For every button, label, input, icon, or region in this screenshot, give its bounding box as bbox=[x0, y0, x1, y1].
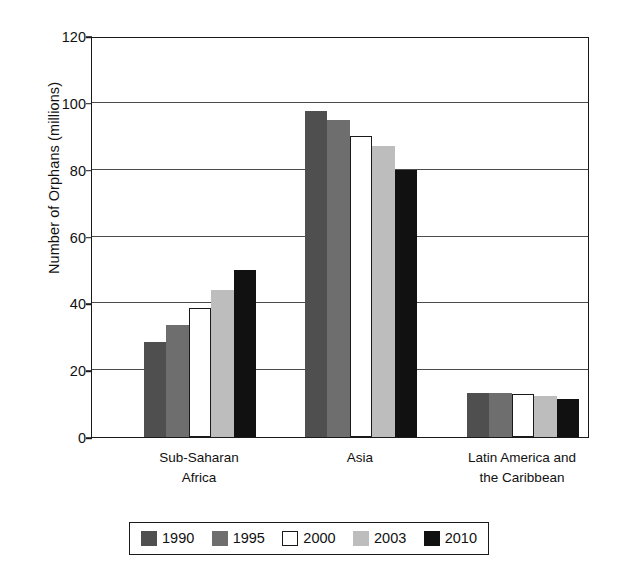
orphans-bar-chart: Number of Orphans (millions) 02040608010… bbox=[0, 0, 618, 585]
legend-item-1990[interactable]: 1990 bbox=[141, 531, 194, 546]
bar-1990-asia bbox=[305, 111, 328, 437]
legend-item-2000[interactable]: 2000 bbox=[282, 531, 335, 546]
bar-1990-latin-america-and-the-caribbean bbox=[467, 393, 490, 437]
bar-2010-latin-america-and-the-caribbean bbox=[557, 399, 580, 437]
bar-2000-sub-saharan-africa bbox=[189, 308, 212, 437]
bar-1995-sub-saharan-africa bbox=[166, 325, 189, 437]
x-axis-category-labels: Sub-SaharanAfricaAsiaLatin America andth… bbox=[91, 448, 589, 504]
legend-swatch-1995 bbox=[212, 531, 228, 546]
legend-item-2010[interactable]: 2010 bbox=[424, 531, 477, 546]
legend-swatch-1990 bbox=[141, 531, 157, 546]
y-tick-label-60: 60 bbox=[42, 230, 86, 245]
bar-1995-asia bbox=[327, 120, 350, 437]
bar-1995-latin-america-and-the-caribbean bbox=[489, 393, 512, 437]
y-tick-label-80: 80 bbox=[42, 163, 86, 178]
legend-item-2003[interactable]: 2003 bbox=[353, 531, 406, 546]
bar-2000-asia bbox=[350, 136, 373, 437]
y-tick-label-20: 20 bbox=[42, 364, 86, 379]
legend-label-2010: 2010 bbox=[445, 531, 477, 546]
bar-2010-sub-saharan-africa bbox=[234, 270, 257, 437]
y-tick-label-100: 100 bbox=[42, 97, 86, 112]
y-axis-ticks: 020406080100120 bbox=[36, 37, 86, 438]
legend-label-2000: 2000 bbox=[303, 531, 335, 546]
x-axis-label-line: Latin America and bbox=[412, 448, 618, 468]
plot-area bbox=[91, 37, 589, 438]
legend-label-1995: 1995 bbox=[233, 531, 265, 546]
bar-2003-asia bbox=[372, 146, 395, 437]
chart-legend: 19901995200020032010 bbox=[129, 522, 489, 555]
x-axis-label-latin-america-and-the-caribbean: Latin America andthe Caribbean bbox=[412, 448, 618, 488]
y-tick-label-0: 0 bbox=[42, 431, 86, 446]
legend-label-2003: 2003 bbox=[374, 531, 406, 546]
bars-layer bbox=[92, 38, 588, 437]
x-axis-label-line: Africa bbox=[89, 468, 309, 488]
x-axis-label-line: the Caribbean bbox=[412, 468, 618, 488]
y-tick-label-120: 120 bbox=[42, 30, 86, 45]
legend-swatch-2000 bbox=[282, 531, 298, 546]
bar-2000-latin-america-and-the-caribbean bbox=[512, 394, 535, 437]
legend-swatch-2003 bbox=[353, 531, 369, 546]
bar-2003-sub-saharan-africa bbox=[211, 290, 234, 437]
legend-swatch-2010 bbox=[424, 531, 440, 546]
bar-2003-latin-america-and-the-caribbean bbox=[534, 396, 557, 437]
y-tick-label-40: 40 bbox=[42, 297, 86, 312]
bar-2010-asia bbox=[395, 170, 418, 437]
bar-1990-sub-saharan-africa bbox=[144, 342, 167, 437]
legend-item-1995[interactable]: 1995 bbox=[212, 531, 265, 546]
legend-label-1990: 1990 bbox=[162, 531, 194, 546]
